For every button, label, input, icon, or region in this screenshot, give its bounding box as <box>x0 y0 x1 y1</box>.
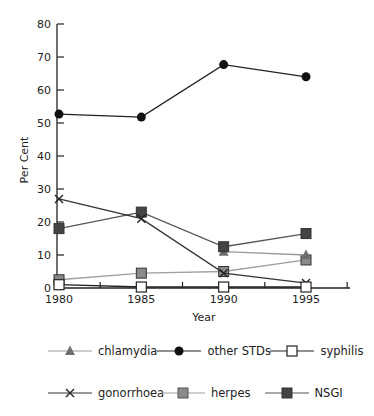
legend-row-2: gonorrhoea herpes NSGI <box>48 382 368 404</box>
legend-label: other STDs <box>207 344 270 358</box>
legend-label: NSGI <box>315 386 343 400</box>
series-layer <box>54 60 311 292</box>
y-tick-label: 60 <box>37 84 51 97</box>
y-tick-label: 40 <box>37 150 51 163</box>
y-tick-label: 50 <box>37 117 51 130</box>
y-tick-label: 70 <box>37 51 51 64</box>
legend-label: syphilis <box>320 344 363 358</box>
data-point <box>136 282 146 292</box>
y-tick-label: 30 <box>37 183 51 196</box>
data-point <box>55 195 63 203</box>
legend-item-herpes: herpes <box>161 386 265 400</box>
legend-label: gonorrhoea <box>98 386 164 400</box>
x-tick-label: 1995 <box>292 293 320 306</box>
data-point <box>54 280 64 290</box>
data-point <box>219 242 229 252</box>
series-gonorrhoea <box>55 195 310 287</box>
circle-marker-icon <box>157 344 201 358</box>
legend-item-syphilis: syphilis <box>270 344 368 358</box>
dark-square-marker-icon <box>265 386 309 400</box>
data-point <box>54 224 64 234</box>
series-chlamydia <box>219 246 311 259</box>
data-point <box>301 229 311 239</box>
series-herpes <box>54 255 311 285</box>
triangle-marker-icon <box>48 344 92 358</box>
legend-label: herpes <box>211 386 250 400</box>
series-other-stds <box>55 60 311 121</box>
data-point <box>136 268 146 278</box>
x-tick-label: 1990 <box>210 293 238 306</box>
y-axis-title: Per Cent <box>18 136 31 183</box>
legend-item-chlamydia: chlamydia <box>48 344 157 358</box>
legend-label: chlamydia <box>98 344 157 358</box>
data-point <box>219 282 229 292</box>
square-marker-icon <box>161 386 205 400</box>
y-tick-label: 20 <box>37 216 51 229</box>
line-chart: 010203040506070801980198519901995 Year P… <box>0 0 374 330</box>
legend-row-1: chlamydia other STDs syphilis <box>48 340 368 362</box>
data-point <box>137 113 146 122</box>
data-point <box>219 60 228 69</box>
x-marker-icon <box>48 386 92 400</box>
x-axis-title: Year <box>191 311 216 324</box>
legend: chlamydia other STDs syphilis gonorrhoea… <box>48 340 368 416</box>
data-point <box>302 72 311 81</box>
x-tick-label: 1980 <box>45 293 73 306</box>
series-nsgi <box>54 207 311 252</box>
data-point <box>301 282 311 292</box>
legend-item-other-stds: other STDs <box>157 344 270 358</box>
y-tick-label: 10 <box>37 249 51 262</box>
legend-item-nsgi: NSGI <box>265 386 369 400</box>
open-square-marker-icon <box>270 344 314 358</box>
data-point <box>55 110 64 119</box>
y-tick-label: 80 <box>37 18 51 31</box>
x-tick-label: 1985 <box>127 293 155 306</box>
legend-item-gonorrhoea: gonorrhoea <box>48 386 161 400</box>
